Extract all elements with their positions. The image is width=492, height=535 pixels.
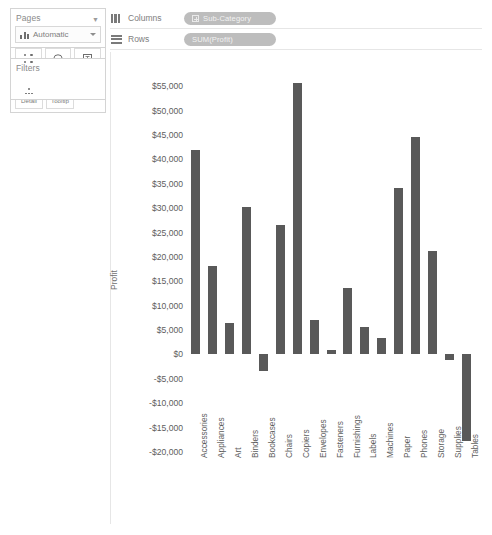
x-axis-tick-label: Tables	[470, 434, 480, 458]
x-axis-tick-label: Paper	[402, 436, 412, 458]
y-axis-tick-label: $45,000	[121, 130, 183, 140]
columns-shelf[interactable]: Columns Sub-Category	[110, 8, 482, 29]
y-axis-tick-label: $5,000	[121, 325, 183, 335]
y-axis-tick-label: $20,000	[121, 252, 183, 262]
y-axis-tick-label: $40,000	[121, 154, 183, 164]
x-axis: AccessoriesAppliancesArtBindersBookcases…	[187, 52, 475, 524]
mark-type-dropdown[interactable]: Automatic	[15, 26, 101, 43]
rows-icon	[111, 35, 122, 44]
plot-area: Profit $55,000$50,000$45,000$40,000$35,0…	[111, 52, 483, 524]
color-dots-icon	[24, 53, 33, 64]
y-axis-tick-label: $0	[121, 349, 183, 359]
mark-type-value: Automatic	[33, 30, 69, 39]
y-axis-tick-label: $25,000	[121, 228, 183, 238]
x-axis-tick-label: Bookcases	[267, 417, 277, 458]
y-axis-tick-label: -$5,000	[121, 374, 183, 384]
y-axis-tick-label: -$10,000	[121, 398, 183, 408]
x-axis-tick-label: Appliances	[216, 417, 226, 458]
y-axis-tick-label: $35,000	[121, 179, 183, 189]
dimension-badge-icon	[192, 15, 199, 22]
rows-shelf-label: Rows	[128, 34, 178, 44]
x-axis-tick-label: Fasteners	[335, 421, 345, 458]
x-axis-tick-label: Furnishings	[352, 415, 362, 458]
y-axis-tick-label: -$20,000	[121, 447, 183, 457]
x-axis-tick-label: Storage	[436, 429, 446, 458]
y-axis-tick-label: $30,000	[121, 203, 183, 213]
pill-sum-profit-label: SUM(Profit)	[192, 35, 233, 44]
y-axis-tick-label: $15,000	[121, 276, 183, 286]
x-axis-tick-label: Copiers	[301, 429, 311, 458]
chart-panel: Profit $55,000$50,000$45,000$40,000$35,0…	[110, 52, 482, 524]
y-axis-tick-label: -$15,000	[121, 423, 183, 433]
shelf-area: Columns Sub-Category Rows SUM(Profit)	[110, 8, 482, 50]
x-axis-tick-label: Supplies	[453, 426, 463, 458]
pill-sub-category[interactable]: Sub-Category	[184, 12, 276, 25]
x-axis-tick-label: Accessories	[199, 413, 209, 458]
y-axis-tick-label: $50,000	[121, 106, 183, 116]
x-axis-tick-label: Chairs	[284, 434, 294, 458]
tableau-worksheet: Pages ▼ Filters Marks Automatic	[0, 0, 492, 535]
bar-chart-icon	[20, 31, 29, 39]
x-axis-tick-label: Binders	[250, 430, 260, 458]
y-axis-tick-label: $55,000	[121, 81, 183, 91]
pages-label: Pages	[11, 9, 105, 25]
pill-sum-profit[interactable]: SUM(Profit)	[184, 33, 276, 46]
x-axis-tick-label: Art	[233, 447, 243, 458]
x-axis-tick-label: Phones	[419, 430, 429, 458]
columns-shelf-label: Columns	[128, 13, 178, 23]
detail-cluster-icon	[25, 86, 34, 97]
pill-sub-category-label: Sub-Category	[203, 14, 251, 23]
y-axis: $55,000$50,000$45,000$40,000$35,000$30,0…	[115, 52, 183, 524]
chevron-down-icon[interactable]: ▼	[92, 16, 99, 23]
x-axis-tick-label: Envelopes	[318, 419, 328, 458]
chevron-down-icon[interactable]	[90, 33, 96, 36]
x-axis-tick-label: Labels	[368, 434, 378, 458]
columns-icon	[111, 13, 122, 23]
left-sidebar: Pages ▼ Filters Marks Automatic	[10, 8, 106, 220]
x-axis-tick-label: Machines	[385, 422, 395, 458]
y-axis-tick-label: $10,000	[121, 301, 183, 311]
rows-shelf[interactable]: Rows SUM(Profit)	[110, 29, 482, 50]
